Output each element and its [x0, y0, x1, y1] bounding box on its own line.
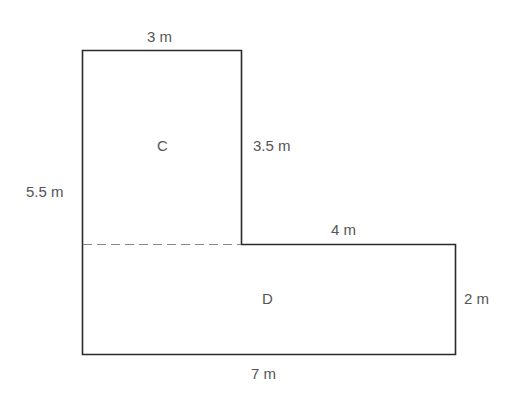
inner-vertical-label: 3.5 m [253, 137, 291, 154]
region-d-label: D [262, 290, 273, 307]
region-c-label: C [157, 137, 168, 154]
top-width-label: 3 m [147, 28, 172, 45]
l-shape-diagram [0, 0, 531, 406]
inner-horizontal-label: 4 m [331, 221, 356, 238]
left-height-label: 5.5 m [26, 183, 64, 200]
l-shape-outline [83, 51, 456, 355]
right-height-label: 2 m [464, 290, 489, 307]
bottom-width-label: 7 m [251, 365, 276, 382]
